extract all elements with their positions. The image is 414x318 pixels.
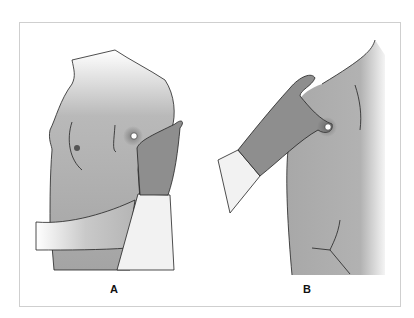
panel-b-label: B	[303, 283, 311, 295]
panel-a	[36, 50, 182, 270]
medical-illustration: A B	[0, 0, 414, 318]
panel-a-label: A	[110, 283, 118, 295]
panel-b	[218, 40, 385, 275]
